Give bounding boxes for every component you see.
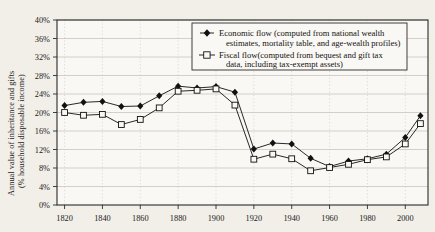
data-point-marker — [156, 105, 162, 111]
data-point-marker — [289, 156, 295, 162]
data-point-marker — [232, 102, 238, 108]
x-axis-tick-label: 1940 — [283, 214, 300, 223]
y-axis-title-line1: Annual value of inheritance and gifts — [7, 71, 16, 196]
legend-label-fiscal-flow-line2: data, including tax-exempt assets) — [226, 59, 343, 69]
data-point-marker — [100, 111, 106, 117]
data-point-marker — [346, 161, 352, 167]
data-point-marker — [270, 151, 276, 157]
y-axis-tick-label: 16% — [35, 127, 50, 136]
y-axis-tick-label: 24% — [35, 90, 50, 99]
x-axis-tick-label: 2000 — [397, 214, 414, 223]
data-point-marker — [81, 112, 87, 118]
y-axis-tick-label: 40% — [35, 16, 50, 25]
x-axis-tick-label: 1840 — [94, 214, 111, 223]
legend-entry-economic-flow: Economic flow (computed from national we… — [200, 28, 401, 48]
inheritance-flow-line-chart: Annual value of inheritance and gifts (%… — [0, 0, 435, 232]
y-axis-title-line2: (% household disposable income) — [17, 74, 26, 188]
chart-legend: Economic flow (computed from national we… — [192, 23, 407, 70]
x-axis-tick-label: 1860 — [132, 214, 149, 223]
y-axis-tick-label: 12% — [35, 146, 50, 155]
y-axis-tick-label: 28% — [35, 72, 50, 81]
x-axis-tick-label: 1960 — [321, 214, 338, 223]
chart-container: Annual value of inheritance and gifts (%… — [0, 0, 435, 232]
data-point-marker — [118, 122, 124, 128]
data-point-marker — [194, 87, 200, 93]
data-point-marker — [175, 88, 181, 94]
data-point-marker — [327, 165, 333, 171]
y-axis-title: Annual value of inheritance and gifts (%… — [7, 71, 26, 196]
y-axis-tick-label: 36% — [35, 35, 50, 44]
legend-label-economic-flow-line2: estimates, mortality table, and age-weal… — [226, 38, 401, 48]
x-axis-tick-label: 1880 — [170, 214, 187, 223]
legend-label-economic-flow-line1: Economic flow (computed from national we… — [219, 28, 385, 38]
x-axis-tick-label: 1920 — [246, 214, 263, 223]
y-axis-tick-label: 32% — [35, 53, 50, 62]
data-point-marker — [383, 154, 389, 160]
data-point-marker — [213, 86, 219, 92]
data-point-marker — [402, 141, 408, 147]
open-square-icon — [204, 52, 210, 58]
legend-label-fiscal-flow-line1: Fiscal flow(computed from bequest and gi… — [219, 50, 383, 60]
data-point-marker — [308, 168, 314, 174]
y-axis-tick-label: 20% — [35, 109, 50, 118]
y-axis-tick-label: 4% — [39, 183, 50, 192]
y-axis-tick-label: 0% — [39, 201, 50, 210]
data-point-marker — [365, 157, 371, 163]
data-point-marker — [418, 121, 424, 127]
x-axis-tick-label: 1820 — [56, 214, 73, 223]
data-point-marker — [137, 117, 143, 123]
data-point-marker — [251, 156, 257, 162]
y-axis-tick-label: 8% — [39, 164, 50, 173]
data-point-marker — [62, 110, 68, 116]
x-axis-tick-label: 1980 — [359, 214, 376, 223]
x-axis-tick-label: 1900 — [208, 214, 225, 223]
